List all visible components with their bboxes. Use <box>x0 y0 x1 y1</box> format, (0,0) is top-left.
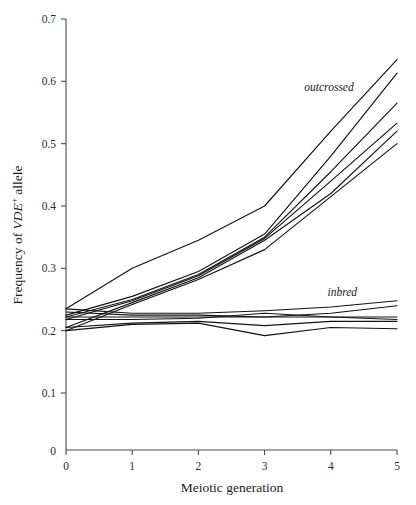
y-axis-title: Frequency of VDE+ allele <box>9 166 25 305</box>
annotation-inbred: inbred <box>327 286 357 298</box>
y-tick-label: 0.7 <box>42 13 57 25</box>
x-tick-label: 5 <box>394 460 400 472</box>
svg-text:Frequency of VDE+ allele: Frequency of VDE+ allele <box>9 166 25 305</box>
y-tick-label: 0.1 <box>42 387 57 399</box>
y-tick-label: 0.5 <box>42 138 57 150</box>
line-chart-canvas: 0.10.20.30.40.50.60.70 012345 Frequency … <box>0 0 416 505</box>
x-tick-label: 3 <box>262 460 268 472</box>
y-tick-label: 0.4 <box>42 200 57 212</box>
y-tick-label: 0.3 <box>42 262 57 274</box>
x-tick-label: 4 <box>328 460 334 472</box>
chart-figure: 0.10.20.30.40.50.60.70 012345 Frequency … <box>0 0 416 505</box>
y-axis-title-prefix: Frequency of <box>10 229 25 304</box>
annotation-outcrossed: outcrossed <box>304 81 354 93</box>
x-tick-label: 2 <box>196 460 202 472</box>
y-origin-label: 0 <box>50 445 56 457</box>
x-tick-label: 0 <box>63 460 69 472</box>
x-axis-title: Meiotic generation <box>181 480 284 495</box>
y-tick-label: 0.2 <box>42 325 57 337</box>
y-axis-title-suffix: allele <box>10 166 25 199</box>
y-axis-title-gene: VDE <box>10 202 25 229</box>
y-tick-label: 0.6 <box>42 75 57 87</box>
chart-background <box>0 0 416 505</box>
x-tick-label: 1 <box>129 460 135 472</box>
